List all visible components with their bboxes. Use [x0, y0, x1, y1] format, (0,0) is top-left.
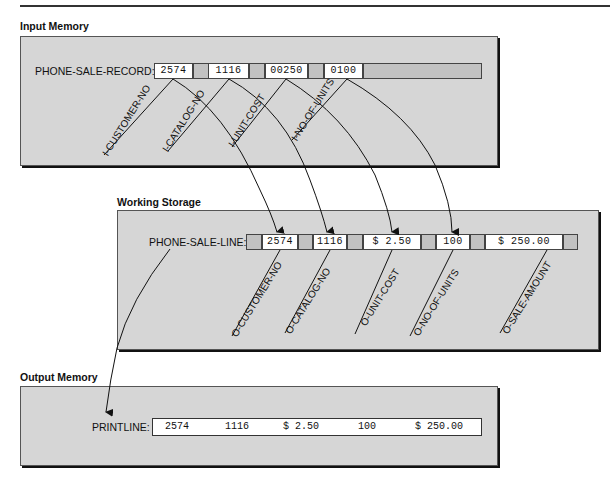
connector-lines	[0, 0, 611, 478]
